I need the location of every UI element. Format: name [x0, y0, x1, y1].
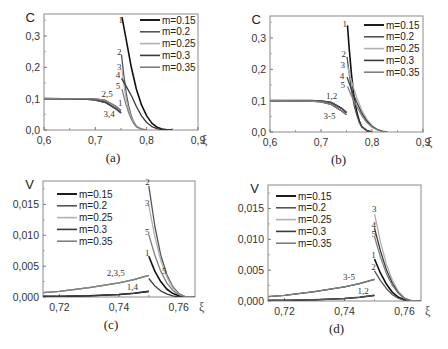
- y-axis-label: V: [250, 181, 259, 196]
- curve-number-label: 5: [162, 266, 167, 276]
- curve-number-label: 3: [145, 198, 150, 208]
- curve-number-label: 1: [118, 15, 123, 25]
- curve-number-label: 5: [340, 80, 345, 90]
- curve-annotations: 345123-51,2: [343, 204, 377, 296]
- panel-d: 0,0000,0050,0100,0150,720,740,76Vξ(d)345…: [238, 181, 431, 336]
- curve-annotations: 235152,3,51,4: [107, 177, 167, 292]
- series-line: [375, 259, 422, 301]
- legend-entry: m=0.15: [298, 191, 332, 202]
- x-tick-label: 0,6: [37, 134, 52, 146]
- series-line: [375, 214, 422, 301]
- y-tick-label: 0,000: [238, 295, 264, 307]
- legend-entry: m=0.3: [386, 55, 415, 66]
- x-tick-label: 0,6: [263, 136, 278, 148]
- legend-entry: m=0.35: [298, 238, 332, 249]
- y-tick-label: 0,3: [251, 32, 266, 44]
- curve-number-label: 1: [342, 19, 347, 29]
- curve-number-label: 5: [372, 229, 377, 239]
- curve-number-label: 2,5: [101, 89, 113, 99]
- curve-number-label: 1: [118, 98, 123, 108]
- panel-label: (b): [331, 152, 346, 167]
- legend-entry: m=0.35: [79, 236, 113, 247]
- panel-label: (a): [106, 150, 120, 165]
- y-tick-label: 0,015: [238, 202, 264, 214]
- figure-canvas: 0,00,10,20,30,60,70,80,9Cξ(a)123452,513,…: [0, 0, 448, 349]
- curve-number-label: 1,2: [326, 91, 337, 101]
- plot-frame: [43, 181, 195, 297]
- x-axis-label: ξ: [202, 133, 208, 147]
- legend: m=0.15m=0.2m=0.25m=0.3m=0.35: [276, 191, 332, 249]
- y-axis-label: C: [26, 10, 35, 25]
- y-tick-label: 0,1: [25, 93, 40, 105]
- legend-entry: m=0.2: [79, 200, 108, 211]
- x-tick-label: 0,8: [139, 134, 154, 146]
- y-tick-label: 0,005: [238, 264, 264, 276]
- y-axis: 0,0000,0050,0100,015: [238, 193, 271, 307]
- x-tick-label: 0,72: [274, 305, 295, 317]
- legend-entry: m=0.15: [79, 189, 113, 200]
- curve-number-label: 2: [341, 49, 346, 59]
- y-tick-label: 0,015: [13, 198, 39, 210]
- series-line: [149, 256, 195, 297]
- y-tick-label: 0,2: [251, 63, 266, 75]
- curve-number-label: 2: [145, 177, 150, 187]
- legend-entry: m=0.35: [386, 67, 420, 78]
- legend-entry: m=0.25: [386, 43, 420, 54]
- curve-number-label: 3: [372, 204, 377, 214]
- curve-number-label: 2: [371, 262, 376, 272]
- series-line: [149, 206, 195, 297]
- curve-number-label: 2,3,5: [107, 268, 126, 278]
- x-tick-label: 0,74: [109, 301, 130, 313]
- y-axis-label: C: [252, 12, 261, 27]
- legend-entry: m=0.2: [298, 202, 327, 213]
- y-tick-label: 0,2: [25, 61, 40, 73]
- x-tick-label: 0,72: [49, 301, 70, 313]
- legend-entry: m=0.25: [162, 38, 196, 49]
- legend-entry: m=0.25: [298, 214, 332, 225]
- curve-number-label: 2: [117, 47, 122, 57]
- panel-c: 0,0000,0050,0100,0150,720,740,76Vξ(c)235…: [13, 177, 205, 332]
- legend-entry: m=0.25: [79, 212, 113, 223]
- y-axis-label: V: [25, 177, 34, 192]
- curve-number-label: 1,4: [127, 282, 139, 292]
- curve-number-label: 1,2: [357, 286, 368, 296]
- y-tick-label: 0,1: [251, 95, 266, 107]
- legend: m=0.15m=0.2m=0.25m=0.3m=0.35: [364, 20, 420, 78]
- legend: m=0.15m=0.2m=0.25m=0.3m=0.35: [57, 189, 113, 247]
- x-tick-label: 0,76: [168, 301, 189, 313]
- x-axis-label: ξ: [199, 300, 205, 314]
- x-tick-label: 0,7: [314, 136, 329, 148]
- legend-entry: m=0.3: [79, 224, 108, 235]
- x-tick-label: 0,74: [334, 305, 355, 317]
- y-tick-label: 0,010: [13, 229, 39, 241]
- curve-number-label: 5: [145, 227, 150, 237]
- x-tick-label: 0,76: [394, 305, 415, 317]
- legend: m=0.15m=0.2m=0.25m=0.3m=0.35: [140, 15, 196, 73]
- curve-number-label: 1: [145, 248, 150, 258]
- y-tick-label: 0,005: [13, 260, 39, 272]
- panel-b: 0,00,10,20,30,60,70,80,9Cξ(b)123451,23-5…: [251, 12, 433, 167]
- panel-a: 0,00,10,20,30,60,70,80,9Cξ(a)123452,513,…: [25, 10, 208, 165]
- legend-entry: m=0.15: [162, 15, 196, 26]
- curve-number-label: 3: [340, 60, 345, 70]
- x-tick-label: 0,7: [88, 134, 103, 146]
- y-tick-label: 0,000: [13, 291, 39, 303]
- legend-entry: m=0.35: [162, 62, 196, 73]
- legend-entry: m=0.3: [298, 226, 327, 237]
- legend-entry: m=0.3: [162, 50, 191, 61]
- legend-entry: m=0.15: [386, 20, 420, 31]
- curve-number-label: 3-5: [324, 111, 336, 121]
- legend-entry: m=0.2: [162, 26, 191, 37]
- x-tick-label: 0,8: [365, 136, 380, 148]
- curve-number-label: 4: [116, 70, 121, 80]
- curves: [268, 214, 421, 301]
- y-axis: 0,0000,0050,0100,015: [13, 189, 46, 303]
- legend-entry: m=0.2: [386, 31, 415, 42]
- curve-annotations: 123452,513,4: [101, 15, 122, 118]
- x-axis-label: ξ: [425, 304, 431, 318]
- curve-number-label: 1: [371, 250, 376, 260]
- x-axis-label: ξ: [427, 135, 433, 149]
- y-tick-label: 0,3: [25, 30, 40, 42]
- curve-number-label: 3-5: [343, 272, 355, 282]
- panel-label: (d): [329, 321, 344, 336]
